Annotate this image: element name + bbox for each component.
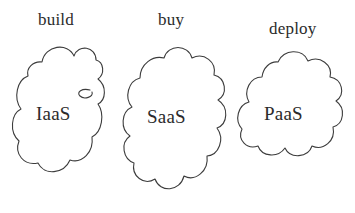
cloud-group-saas: buy SaaS [118, 0, 238, 210]
cloud-top-label-build: build [38, 11, 74, 28]
cloud-inner-label-paas: PaaS [264, 104, 303, 123]
cloud-inner-label-iaas: IaaS [36, 104, 71, 123]
cloud-inner-label-saas: SaaS [147, 107, 186, 126]
cloud-group-paas: deploy PaaS [236, 0, 355, 200]
cloud-top-label-deploy: deploy [269, 20, 316, 37]
cloud-models-diagram: build IaaS buy SaaS deploy PaaS [0, 0, 355, 213]
cloud-group-iaas: build IaaS [0, 0, 120, 200]
cloud-top-label-buy: buy [158, 11, 184, 28]
